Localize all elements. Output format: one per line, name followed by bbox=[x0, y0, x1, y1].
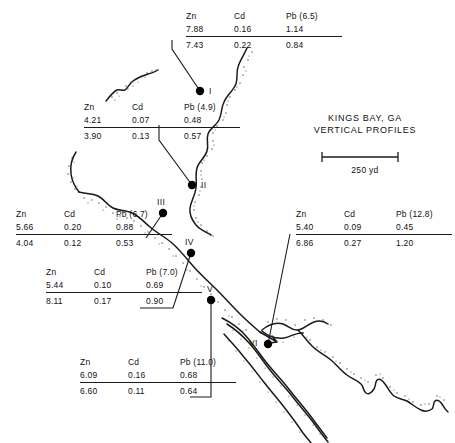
profile-table-III-upper-zn: 5.66 bbox=[16, 222, 64, 232]
profile-table-V-lower-cd: 0.11 bbox=[128, 386, 180, 396]
profile-table-IV-lower-cd: 0.17 bbox=[94, 296, 146, 306]
profile-table-II-header: Zn Cd Pb (4.9) bbox=[84, 100, 240, 113]
profile-table-III-lower-row: 4.04 0.12 0.53 bbox=[16, 236, 172, 249]
profile-table-II-upper-cd: 0.07 bbox=[132, 115, 184, 125]
station-label-IV: IV bbox=[185, 237, 194, 247]
profile-table-I-upper-row: 7.88 0.16 1.14 bbox=[186, 22, 342, 35]
profile-table-I-divider bbox=[186, 36, 342, 37]
profile-table-IV-header: Zn Cd Pb (7.0) bbox=[46, 265, 202, 278]
kings-bay-vertical-profiles-map: KINGS BAY, GA VERTICAL PROFILES 250 yd Z… bbox=[0, 0, 455, 443]
profile-table-II-divider bbox=[84, 127, 240, 128]
profile-table-I-lower-cd: 0.22 bbox=[234, 40, 286, 50]
profile-table-IV-lower-zn: 8.11 bbox=[46, 296, 94, 306]
profile-table-VI-header-zn: Zn bbox=[296, 209, 344, 219]
profile-table-I-header-pb: Pb (6.5) bbox=[286, 11, 342, 21]
profile-table-III-divider bbox=[16, 234, 172, 235]
shoreline-southeast-main bbox=[298, 330, 448, 412]
profile-table-V-upper-cd: 0.16 bbox=[128, 370, 180, 380]
station-marker-IV[interactable] bbox=[187, 249, 195, 257]
map-title-line-1: KINGS BAY, GA bbox=[306, 112, 424, 124]
profile-table-V-header-cd: Cd bbox=[128, 357, 180, 367]
profile-table-IV-lower-row: 8.11 0.17 0.90 bbox=[46, 294, 202, 307]
profile-table-V-lower-zn: 6.60 bbox=[80, 386, 128, 396]
profile-table-IV-header-cd: Cd bbox=[94, 267, 146, 277]
profile-table-II-header-pb: Pb (4.9) bbox=[184, 102, 240, 112]
profile-table-VI: Zn Cd Pb (12.8) 5.40 0.09 0.45 6.86 0.27… bbox=[296, 207, 452, 249]
profile-table-IV-divider bbox=[46, 292, 202, 293]
profile-table-V-header-zn: Zn bbox=[80, 357, 128, 367]
profile-table-III-header-pb: Pb (6.7) bbox=[116, 209, 172, 219]
profile-table-IV: Zn Cd Pb (7.0) 5.44 0.10 0.69 8.11 0.17 … bbox=[46, 265, 202, 307]
profile-table-V-upper-pb: 0.68 bbox=[180, 370, 236, 380]
profile-table-III-upper-pb: 0.88 bbox=[116, 222, 172, 232]
profile-table-V-upper-row: 6.09 0.16 0.68 bbox=[80, 368, 236, 381]
profile-table-I-header-cd: Cd bbox=[234, 11, 286, 21]
profile-table-III-lower-cd: 0.12 bbox=[64, 238, 116, 248]
profile-table-II-header-zn: Zn bbox=[84, 102, 132, 112]
profile-table-IV-upper-zn: 5.44 bbox=[46, 280, 94, 290]
profile-table-I-upper-pb: 1.14 bbox=[286, 24, 342, 34]
profile-table-III-header-zn: Zn bbox=[16, 209, 64, 219]
station-marker-I[interactable] bbox=[196, 87, 204, 95]
profile-table-IV-upper-row: 5.44 0.10 0.69 bbox=[46, 278, 202, 291]
profile-table-I-header-zn: Zn bbox=[186, 11, 234, 21]
profile-table-IV-lower-pb: 0.90 bbox=[146, 296, 202, 306]
profile-table-VI-divider bbox=[296, 234, 452, 235]
tidal-creek-south-bank bbox=[224, 334, 311, 443]
profile-table-II-lower-pb: 0.57 bbox=[184, 131, 240, 141]
profile-table-III: Zn Cd Pb (6.7) 5.66 0.20 0.88 4.04 0.12 … bbox=[16, 207, 172, 249]
profile-table-VI-lower-zn: 6.86 bbox=[296, 238, 344, 248]
profile-table-I-lower-pb: 0.84 bbox=[286, 40, 342, 50]
profile-table-I-header: Zn Cd Pb (6.5) bbox=[186, 9, 342, 22]
profile-table-I-upper-cd: 0.16 bbox=[234, 24, 286, 34]
profile-table-V-upper-zn: 6.09 bbox=[80, 370, 128, 380]
station-label-V: V bbox=[207, 284, 213, 294]
profile-table-II-upper-pb: 0.48 bbox=[184, 115, 240, 125]
profile-table-I-lower-zn: 7.43 bbox=[186, 40, 234, 50]
map-title-line-2: VERTICAL PROFILES bbox=[306, 124, 424, 136]
station-marker-II[interactable] bbox=[188, 181, 196, 189]
scale-bar bbox=[322, 152, 398, 162]
profile-table-V-header: Zn Cd Pb (11.0) bbox=[80, 355, 236, 368]
profile-table-VI-header-cd: Cd bbox=[344, 209, 396, 219]
profile-table-VI-header: Zn Cd Pb (12.8) bbox=[296, 207, 452, 220]
station-label-VI: VI bbox=[249, 338, 258, 348]
profile-table-I-lower-row: 7.43 0.22 0.84 bbox=[186, 38, 342, 51]
profile-table-II-upper-row: 4.21 0.07 0.48 bbox=[84, 113, 240, 126]
profile-table-IV-upper-cd: 0.10 bbox=[94, 280, 146, 290]
profile-table-V-lower-row: 6.60 0.11 0.64 bbox=[80, 384, 236, 397]
profile-table-VI-upper-zn: 5.40 bbox=[296, 222, 344, 232]
profile-table-II-upper-zn: 4.21 bbox=[84, 115, 132, 125]
profile-table-I-upper-zn: 7.88 bbox=[186, 24, 234, 34]
map-title-block: KINGS BAY, GA VERTICAL PROFILES bbox=[306, 112, 424, 136]
shoreline-upper-left-islet bbox=[106, 70, 158, 101]
profile-table-V-header-pb: Pb (11.0) bbox=[180, 357, 236, 367]
profile-table-IV-header-zn: Zn bbox=[46, 267, 94, 277]
profile-table-VI-upper-row: 5.40 0.09 0.45 bbox=[296, 220, 452, 233]
station-marker-VI[interactable] bbox=[264, 340, 272, 348]
profile-table-VI-upper-pb: 0.45 bbox=[396, 222, 452, 232]
profile-table-II-header-cd: Cd bbox=[132, 102, 184, 112]
profile-table-I: Zn Cd Pb (6.5) 7.88 0.16 1.14 7.43 0.22 … bbox=[186, 9, 342, 51]
profile-table-V-divider bbox=[80, 382, 236, 383]
profile-table-VI-header-pb: Pb (12.8) bbox=[396, 209, 452, 219]
profile-table-III-upper-row: 5.66 0.20 0.88 bbox=[16, 220, 172, 233]
profile-table-VI-lower-cd: 0.27 bbox=[344, 238, 396, 248]
profile-table-II-lower-row: 3.90 0.13 0.57 bbox=[84, 129, 240, 142]
profile-table-III-lower-pb: 0.53 bbox=[116, 238, 172, 248]
profile-table-III-upper-cd: 0.20 bbox=[64, 222, 116, 232]
profile-table-VI-lower-row: 6.86 0.27 1.20 bbox=[296, 236, 452, 249]
profile-table-III-lower-zn: 4.04 bbox=[16, 238, 64, 248]
profile-table-II-lower-zn: 3.90 bbox=[84, 131, 132, 141]
station-label-III: III bbox=[157, 197, 165, 207]
station-marker-V[interactable] bbox=[207, 296, 215, 304]
profile-table-IV-header-pb: Pb (7.0) bbox=[146, 267, 202, 277]
profile-table-III-header: Zn Cd Pb (6.7) bbox=[16, 207, 172, 220]
profile-table-VI-upper-cd: 0.09 bbox=[344, 222, 396, 232]
station-label-II: II bbox=[201, 180, 207, 190]
profile-table-V: Zn Cd Pb (11.0) 6.09 0.16 0.68 6.60 0.11… bbox=[80, 355, 236, 397]
leader-line-VI bbox=[268, 234, 290, 344]
scale-bar-label: 250 yd bbox=[306, 165, 424, 175]
profile-table-II: Zn Cd Pb (4.9) 4.21 0.07 0.48 3.90 0.13 … bbox=[84, 100, 240, 142]
profile-table-V-lower-pb: 0.64 bbox=[180, 386, 236, 396]
